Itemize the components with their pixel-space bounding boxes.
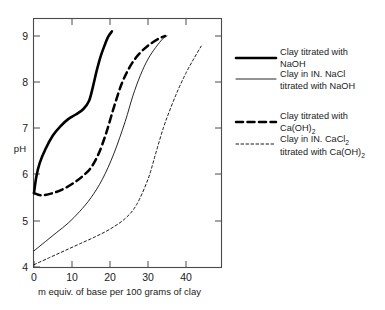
x-tick-label-40: 40 [180,271,192,283]
series-clay-nacl-naoh [34,36,167,251]
legend-label-3-line2-pre: titrated with Ca(OH) [280,147,361,157]
x-axis-label: m equiv. of base per 100 grams of clay [38,286,201,297]
y-tick-label-9: 9 [22,30,28,42]
legend-label-2-formula: Ca(OH) [280,123,312,133]
legend-label-3-pre: Clay in IN. CaCl [280,134,345,144]
legend-label-0-line2: NaOH [280,59,306,69]
series-clay-cacl2-caoh2 [34,46,201,265]
ph-titration-chart: 9 8 7 6 5 4 pH 0 10 20 30 40 m equiv. of… [0,0,385,310]
legend-label-1-line1: Clay in IN. NaCl [280,69,345,79]
y-tick-label-5: 5 [22,215,28,227]
series-clay-naoh [34,31,112,193]
x-tick-label-10: 10 [66,271,78,283]
plot-frame [34,19,222,268]
x-tick-label-0: 0 [31,271,37,283]
legend-label-1-line2: titrated with NaOH [280,81,355,91]
y-axis-ticks [34,36,222,267]
x-axis-ticks [34,19,186,268]
y-axis-label: pH [14,143,26,154]
y-tick-label-4: 4 [22,261,28,273]
legend-label-3-line1: Clay in IN. CaCl2 [280,134,349,146]
legend-label-3-line2-sub: 2 [361,152,365,159]
legend: Clay titrated with NaOH Clay in IN. NaCl… [236,47,365,159]
y-tick-label-6: 6 [22,168,28,180]
legend-label-2-line1: Clay titrated with [280,111,348,121]
x-tick-label-30: 30 [142,271,154,283]
x-tick-label-20: 20 [104,271,116,283]
legend-label-0-line1: Clay titrated with [280,47,348,57]
y-tick-label-8: 8 [22,76,28,88]
y-tick-label-7: 7 [22,122,28,134]
chart-figure: 9 8 7 6 5 4 pH 0 10 20 30 40 m equiv. of… [0,0,385,310]
legend-label-3-line2: titrated with Ca(OH)2 [280,147,365,159]
curves-group [34,31,201,264]
legend-label-3-sub: 2 [345,139,349,146]
